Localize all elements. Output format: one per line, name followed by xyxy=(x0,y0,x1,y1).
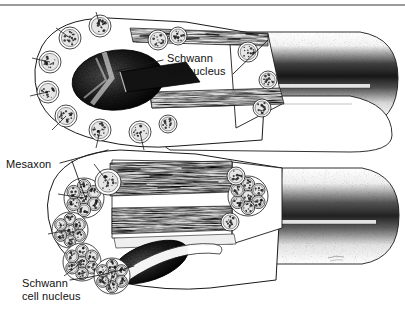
label-schwann-top-line2: cell nucleus xyxy=(167,65,226,78)
lower-fiber-axon-band-top xyxy=(108,158,236,198)
upper-fiber xyxy=(30,12,400,152)
axon-cross-section-11 xyxy=(259,71,277,89)
axon-cluster-5-sat-4 xyxy=(231,195,244,208)
axon-cross-section-8 xyxy=(148,30,168,50)
axon-cluster-1-sat-1 xyxy=(73,219,85,231)
axon-cluster-2-sat-4 xyxy=(66,261,79,274)
axon-cluster-1-sat-5 xyxy=(55,219,67,231)
axon-cross-section-7 xyxy=(159,115,177,133)
label-schwann-cell-nucleus-top: Schwann cell nucleus xyxy=(167,52,226,78)
axon-cross-section-low-7 xyxy=(221,213,239,231)
label-schwann-bottom-line1: Schwann xyxy=(22,277,81,290)
axon-cluster-3-sat-4 xyxy=(97,275,109,287)
axon-cross-section-12 xyxy=(253,99,271,117)
axon-cluster-2-sat-5 xyxy=(66,250,79,263)
axon-cluster-0-sat-4 xyxy=(67,197,80,210)
label-schwann-top-line1: Schwann xyxy=(167,52,226,65)
axon-cluster-5-sat-1 xyxy=(252,183,265,196)
label-schwann-bottom-line2: cell nucleus xyxy=(22,290,81,303)
axon-cross-section-low-6 xyxy=(227,167,245,185)
axon-cluster-5-sat-5 xyxy=(231,183,244,196)
axon-cluster-2-sat-1 xyxy=(86,250,99,263)
label-schwann-cell-nucleus-bottom: Schwann cell nucleus xyxy=(22,277,81,303)
axon-cross-section-9 xyxy=(169,27,187,45)
label-mesaxon-line1: Mesaxon xyxy=(6,158,51,171)
nerve-fiber-diagram xyxy=(0,0,405,317)
label-mesaxon: Mesaxon xyxy=(6,158,51,171)
